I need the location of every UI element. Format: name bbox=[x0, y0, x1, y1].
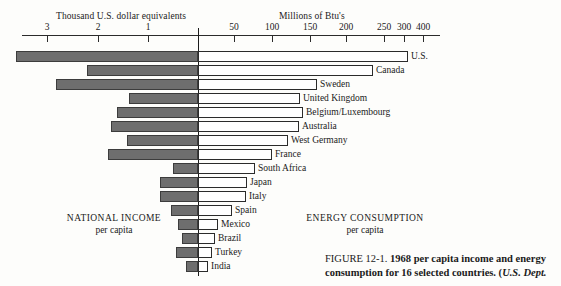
country-label: Belgium/Luxembourg bbox=[306, 106, 390, 119]
left-tick-mark bbox=[47, 36, 48, 42]
national-income-caption-sub: per capita bbox=[38, 224, 190, 236]
energy-consumption-bar bbox=[198, 149, 272, 160]
energy-consumption-caption: ENERGY CONSUMPTION per capita bbox=[289, 212, 441, 236]
right-tick-mark bbox=[310, 36, 311, 42]
country-label: U.S. bbox=[411, 50, 428, 63]
national-income-caption: NATIONAL INCOME per capita bbox=[38, 212, 190, 236]
chart-row: Australia bbox=[0, 120, 561, 133]
national-income-bar bbox=[176, 247, 198, 258]
chart-row: France bbox=[0, 148, 561, 161]
figure-number: FIGURE 12-1. bbox=[325, 253, 387, 264]
energy-consumption-bar bbox=[198, 163, 255, 174]
energy-consumption-bar bbox=[198, 107, 303, 118]
country-label: France bbox=[275, 148, 301, 161]
left-tick-label: 2 bbox=[96, 22, 101, 32]
national-income-bar bbox=[111, 121, 198, 132]
figure-container: Thousand U.S. dollar equivalents Million… bbox=[0, 0, 561, 286]
national-income-bar bbox=[186, 261, 198, 272]
right-tick-mark bbox=[234, 36, 235, 42]
national-income-bar bbox=[173, 163, 198, 174]
right-tick-label: 300 bbox=[397, 22, 411, 32]
left-tick-label: 3 bbox=[45, 22, 50, 32]
country-label: Sweden bbox=[320, 78, 350, 91]
chart-row: Canada bbox=[0, 64, 561, 77]
energy-consumption-bar bbox=[198, 79, 317, 90]
national-income-bar bbox=[16, 51, 198, 62]
national-income-bar bbox=[56, 79, 198, 90]
left-tick-mark bbox=[98, 36, 99, 42]
chart-row: Italy bbox=[0, 190, 561, 203]
chart-row: Japan bbox=[0, 176, 561, 189]
right-tick-label: 200 bbox=[339, 22, 353, 32]
energy-consumption-bar bbox=[198, 247, 212, 258]
chart-row: U.S. bbox=[0, 50, 561, 63]
country-label: Spain bbox=[235, 204, 257, 217]
country-label: India bbox=[211, 260, 231, 273]
energy-consumption-bar bbox=[198, 205, 232, 216]
country-label: South Africa bbox=[258, 162, 306, 175]
right-tick-mark bbox=[384, 36, 385, 42]
country-label: Japan bbox=[250, 176, 272, 189]
chart-row: Belgium/Luxembourg bbox=[0, 106, 561, 119]
right-tick-mark bbox=[346, 36, 347, 42]
country-label: United Kingdom bbox=[303, 92, 367, 105]
right-tick-label: 400 bbox=[416, 22, 430, 32]
chart-row: South Africa bbox=[0, 162, 561, 175]
energy-consumption-bar bbox=[198, 51, 408, 62]
national-income-bar bbox=[160, 177, 198, 188]
chart-row: Sweden bbox=[0, 78, 561, 91]
right-axis-title: Millions of Btu's bbox=[279, 11, 345, 21]
right-tick-label: 100 bbox=[265, 22, 279, 32]
left-tick-label: 1 bbox=[146, 22, 151, 32]
country-label: Brazil bbox=[218, 232, 241, 245]
energy-consumption-bar bbox=[198, 191, 246, 202]
national-income-bar bbox=[108, 149, 198, 160]
national-income-bar bbox=[117, 107, 198, 118]
country-label: Turkey bbox=[215, 246, 242, 259]
right-tick-mark bbox=[272, 36, 273, 42]
right-tick-label: 250 bbox=[377, 22, 391, 32]
left-axis-line bbox=[22, 35, 198, 36]
energy-consumption-caption-main: ENERGY CONSUMPTION bbox=[289, 212, 441, 224]
energy-consumption-bar bbox=[198, 177, 247, 188]
energy-consumption-bar bbox=[198, 261, 208, 272]
national-income-bar bbox=[127, 135, 198, 146]
right-tick-label: 150 bbox=[303, 22, 317, 32]
right-tick-label: 50 bbox=[229, 22, 239, 32]
country-label: Canada bbox=[376, 64, 405, 77]
energy-consumption-bar bbox=[198, 135, 288, 146]
country-label: West Germany bbox=[291, 134, 347, 147]
national-income-caption-main: NATIONAL INCOME bbox=[38, 212, 190, 224]
chart-row: West Germany bbox=[0, 134, 561, 147]
country-label: Italy bbox=[249, 190, 266, 203]
energy-consumption-bar bbox=[198, 233, 215, 244]
left-axis-title: Thousand U.S. dollar equivalents bbox=[56, 11, 186, 21]
national-income-bar bbox=[87, 65, 198, 76]
country-label: Mexico bbox=[221, 218, 250, 231]
right-tick-mark bbox=[404, 36, 405, 42]
country-label: Australia bbox=[302, 120, 337, 133]
chart-row: United Kingdom bbox=[0, 92, 561, 105]
energy-consumption-bar bbox=[198, 219, 218, 230]
national-income-bar bbox=[129, 93, 198, 104]
energy-consumption-caption-sub: per capita bbox=[289, 224, 441, 236]
energy-consumption-bar bbox=[198, 121, 299, 132]
figure-source: U.S. Dept. bbox=[502, 267, 546, 278]
left-tick-mark bbox=[148, 36, 149, 42]
energy-consumption-bar bbox=[198, 93, 300, 104]
figure-caption: FIGURE 12-1. 1968 per capita income and … bbox=[325, 252, 561, 279]
right-tick-mark bbox=[423, 36, 424, 42]
energy-consumption-bar bbox=[198, 65, 373, 76]
national-income-bar bbox=[160, 191, 198, 202]
